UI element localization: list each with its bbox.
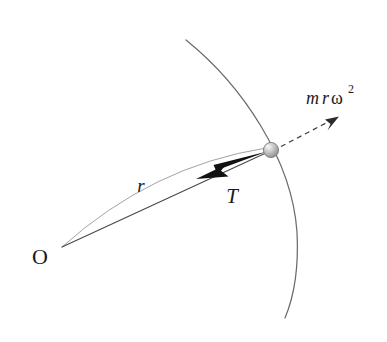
tension-label: T (226, 184, 239, 208)
radius-label: r (137, 175, 145, 196)
centrifugal-label-exponent: 2 (348, 82, 354, 96)
centrifugal-label-omega: ω (331, 88, 343, 108)
circular-motion-diagram: O r T m r ω 2 (0, 0, 387, 342)
physics-diagram-canvas: O r T m r ω 2 (0, 0, 387, 342)
origin-label: O (32, 244, 48, 269)
diagram-background (0, 0, 387, 342)
bead-particle (263, 142, 278, 157)
centrifugal-label-r: r (322, 88, 330, 108)
bead-sphere (263, 142, 278, 157)
bead-highlight (266, 145, 271, 149)
centrifugal-label-m: m (306, 88, 319, 108)
